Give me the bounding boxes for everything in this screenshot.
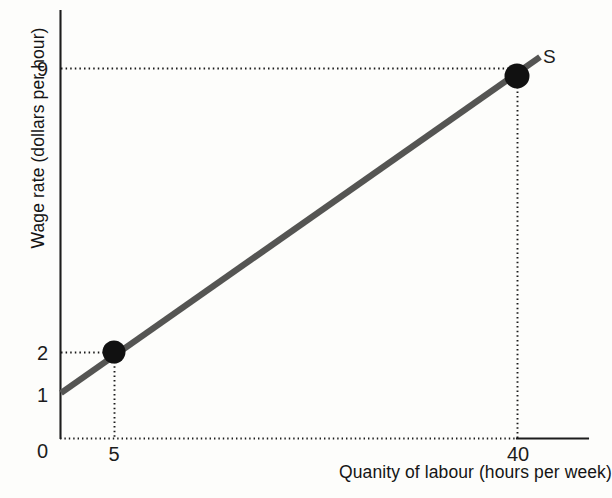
x-axis-title: Quanity of labour (hours per week): [339, 462, 612, 483]
y-axis-title: Wage rate (dollars per hour): [28, 29, 49, 249]
y-tick-label-1: 1: [37, 384, 48, 406]
x-tick-label-5: 5: [108, 443, 119, 465]
y-tick-label-0: 0: [37, 440, 48, 462]
curve-label-s: S: [543, 46, 556, 67]
data-point-high: [505, 64, 530, 89]
supply-curve-chart: 9 2 1 0 5 40 S Quanity of labour (hours …: [0, 0, 612, 498]
chart-canvas: 9 2 1 0 5 40 S: [0, 0, 612, 498]
y-tick-label-2: 2: [37, 342, 48, 364]
data-point-low: [103, 341, 126, 364]
supply-curve-line: [61, 57, 540, 393]
